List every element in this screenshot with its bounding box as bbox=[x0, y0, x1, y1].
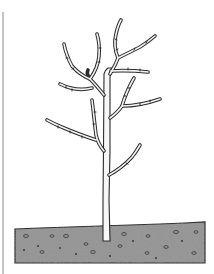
frame-edge-line bbox=[2, 12, 4, 274]
tree-illustration: Line drawing of a young leafless tree wi… bbox=[0, 0, 214, 274]
tree-drawing-svg bbox=[0, 0, 214, 274]
